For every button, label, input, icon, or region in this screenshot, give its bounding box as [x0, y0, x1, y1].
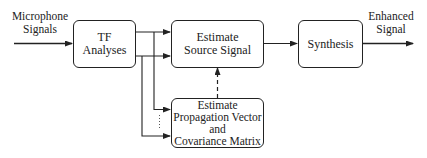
synthesis-block: Synthesis: [298, 20, 363, 68]
output-label: Enhanced Signal: [365, 10, 417, 36]
input-label-line-2: Signals: [10, 23, 70, 36]
output-label-line-2: Signal: [365, 23, 417, 36]
estimate-source-signal-block: Estimate Source Signal: [171, 20, 264, 68]
tf-to-prop-arrow-1: [154, 32, 170, 110]
estimate-propagation-block: Estimate Propagation Vector and Covarian…: [171, 98, 264, 148]
input-label-line-1: Microphone: [10, 10, 70, 23]
input-label: Microphone Signals: [10, 10, 70, 36]
prop-line-1: Estimate: [197, 99, 237, 111]
tf-analyses-block: TF Analyses: [73, 20, 136, 68]
prop-line-2: Propagation Vector: [173, 111, 261, 123]
tf-line-2: Analyses: [83, 44, 127, 57]
ess-line-2: Source Signal: [184, 44, 251, 57]
synthesis-line-1: Synthesis: [307, 38, 353, 51]
output-label-line-1: Enhanced: [365, 10, 417, 23]
prop-line-4: Covariance Matrix: [174, 135, 261, 147]
prop-line-3: and: [209, 123, 226, 135]
tf-to-prop-arrow-2: [142, 56, 170, 136]
